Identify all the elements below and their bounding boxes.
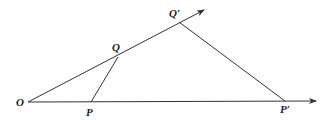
diagram-canvas: O P Q Q′ P′	[0, 0, 328, 120]
geometry-diagram: O P Q Q′ P′	[0, 0, 328, 120]
segment-p-prime-q-prime	[179, 22, 285, 101]
label-p-prime: P′	[280, 103, 290, 115]
ray-oq	[28, 10, 204, 102]
label-p: P	[86, 106, 93, 118]
label-q: Q	[112, 41, 120, 53]
segment-pq	[91, 57, 118, 102]
label-o: O	[16, 96, 24, 108]
label-q-prime: Q′	[169, 7, 180, 19]
ray-op	[28, 101, 316, 102]
